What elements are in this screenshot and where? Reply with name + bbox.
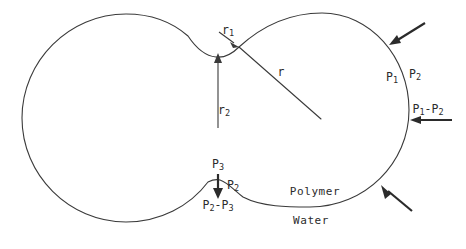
label-p3: P3 <box>212 159 224 171</box>
label-p1-minus-p2-sub2: 2 <box>438 107 443 117</box>
force-arrow-bottom-right-line <box>388 191 412 211</box>
radius-r-line <box>239 47 321 119</box>
label-p1-minus-p2-sub1: 1 <box>419 107 424 117</box>
label-p2-minus-p3: P2-P3 <box>202 200 233 212</box>
label-p2-minus-p3-p: P <box>202 198 209 212</box>
label-r1: r1 <box>222 25 234 37</box>
radius-r2-arrowhead <box>214 53 222 63</box>
label-p2-minus-p3-dash: - <box>215 198 222 212</box>
label-r2: r2 <box>218 105 230 117</box>
label-p2-lower: P2 <box>227 180 239 192</box>
label-polymer: Polymer <box>290 186 341 197</box>
label-p2-subscript: 2 <box>416 72 421 82</box>
label-p1-minus-p2-dash: - <box>425 102 432 116</box>
label-r2-text: r <box>218 103 225 117</box>
label-p1-minus-p2-p: P <box>412 102 419 116</box>
label-r2-subscript: 2 <box>225 108 230 118</box>
label-p1-text: P <box>386 70 393 84</box>
label-r1-subscript: 1 <box>229 28 234 38</box>
label-p3-text: P <box>212 157 219 171</box>
label-water: Water <box>293 215 329 226</box>
label-r-text: r <box>278 65 285 79</box>
label-p2-lower-text: P <box>227 178 234 192</box>
force-arrow-top-right-head <box>389 35 401 45</box>
label-p2-text: P <box>409 67 416 81</box>
label-p2-minus-p3-sub2: 3 <box>228 203 233 213</box>
label-p2-minus-p3-p2: P <box>221 198 228 212</box>
label-p1-subscript: 1 <box>393 75 398 85</box>
label-r: r <box>278 67 285 79</box>
label-p3-subscript: 3 <box>219 162 224 172</box>
label-p1-minus-p2-p2: P <box>431 102 438 116</box>
label-r1-text: r <box>222 23 229 37</box>
label-p2-lower-subscript: 2 <box>234 183 239 193</box>
diagram-canvas: r1 r2 r P1 P2 P1-P2 P3 P2 P2-P3 Polymer … <box>0 0 466 249</box>
label-p1: P1 <box>386 72 398 84</box>
label-p1-minus-p2: P1-P2 <box>412 104 443 116</box>
radius-r1-arrowhead <box>230 42 239 48</box>
label-p2: P2 <box>409 69 421 81</box>
force-arrow-top-right-line <box>396 23 425 41</box>
label-p2-minus-p3-sub1: 2 <box>209 203 214 213</box>
